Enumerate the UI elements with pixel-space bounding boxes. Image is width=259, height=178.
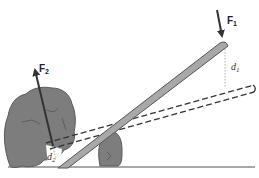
big-rock [4,87,75,167]
force-1-label: F1 [227,15,237,27]
lever-diagram: F1 F2 d1 d2 [0,0,259,178]
dashed-lever-top [46,85,254,143]
force-1-arrow [217,10,222,36]
force-2-label: F2 [39,63,49,75]
dashed-lever-end [253,85,255,92]
lever-bar [58,42,228,168]
distance-1-label: d1 [231,61,240,74]
